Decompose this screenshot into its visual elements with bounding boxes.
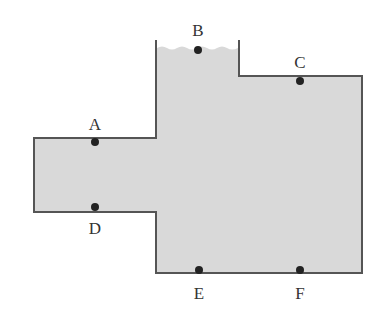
point-b-label: B	[188, 22, 208, 39]
point-d-label: D	[85, 220, 105, 237]
point-d-marker	[91, 203, 99, 211]
point-f-label: F	[290, 285, 310, 302]
point-a-label: A	[85, 116, 105, 133]
point-e-marker	[195, 266, 203, 274]
point-a-marker	[91, 138, 99, 146]
point-c-marker	[296, 77, 304, 85]
liquid-region	[34, 47, 362, 274]
point-b-marker	[194, 46, 202, 54]
point-f-marker	[296, 266, 304, 274]
container-diagram	[0, 0, 370, 316]
point-c-label: C	[290, 54, 310, 71]
point-e-label: E	[189, 285, 209, 302]
